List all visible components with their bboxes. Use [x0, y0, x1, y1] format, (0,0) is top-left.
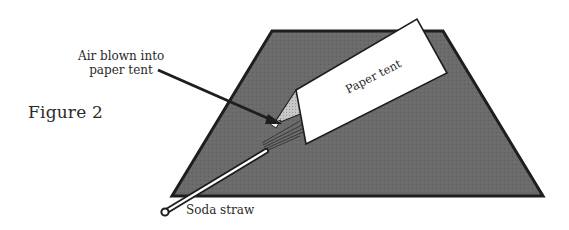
air-blown-label-line2: paper tent [78, 63, 164, 77]
air-blown-label-line1: Air blown into [78, 49, 164, 63]
soda-straw-label: Soda straw [186, 203, 254, 217]
figure-title: Figure 2 [28, 102, 103, 122]
air-blown-label: Air blown into paper tent [78, 49, 164, 77]
